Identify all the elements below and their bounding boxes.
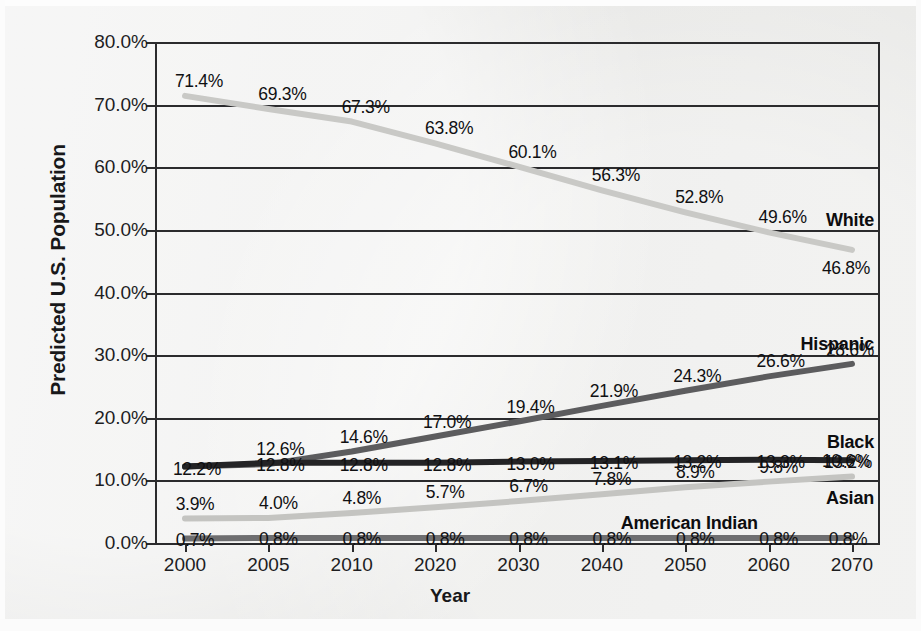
x-tick-label: 2040 [562,554,642,576]
data-label: 69.3% [258,84,306,105]
y-tick-label: 80.0% [38,31,148,53]
series-label-hispanic: Hispanic [801,333,874,354]
y-tick-label: 40.0% [38,282,148,304]
y-tick-label: 10.0% [38,469,148,491]
data-label: 0.7% [176,529,215,550]
data-label: 60.1% [508,141,556,162]
data-label: 9.8% [759,456,798,477]
data-label: 8.9% [676,462,715,483]
data-label: 13.0% [506,453,554,474]
scan-edge-left [0,0,5,631]
x-tick-label: 2020 [395,554,475,576]
plot-area: 0.0%10.0%20.0%30.0%40.0%50.0%60.0%70.0%8… [155,42,880,543]
y-tick-label: 60.0% [38,156,148,178]
series-label-white: White [826,209,874,230]
data-label: 12.8% [256,454,304,475]
x-tick-label: 2050 [645,554,725,576]
data-label: 52.8% [675,187,723,208]
scan-edge-right [916,0,921,631]
y-tick-label: 50.0% [38,219,148,241]
x-tick-label: 2000 [145,554,225,576]
data-label: 6.7% [509,476,548,497]
data-label: 63.8% [425,118,473,139]
x-tick-label: 2030 [479,554,559,576]
data-label: 10.6% [822,450,870,471]
data-label: 46.8% [822,257,870,278]
data-label: 12.8% [340,454,388,475]
data-label: 3.9% [176,493,215,514]
data-label: 56.3% [592,165,640,186]
data-label: 49.6% [759,207,807,228]
data-label: 26.6% [757,351,805,372]
x-tick-label: 2005 [228,554,308,576]
data-label: 4.8% [342,487,381,508]
data-label: 7.8% [593,469,632,490]
data-label: 21.9% [590,380,638,401]
data-label: 19.4% [506,396,554,417]
data-label: 71.4% [175,70,223,91]
series-label-asian: Asian [826,487,874,508]
x-tick-label: 2070 [812,554,892,576]
data-label: 17.0% [423,411,471,432]
y-tick-label: 70.0% [38,94,148,116]
series-label-black: Black [827,431,874,452]
x-axis-title: Year [430,585,470,607]
y-tick-label: 20.0% [38,407,148,429]
data-label: 0.8% [509,528,548,549]
data-label: 12.2% [173,458,221,479]
series-line-white [185,96,852,250]
data-label: 0.8% [342,528,381,549]
data-label: 0.8% [759,528,798,549]
data-label: 67.3% [342,96,390,117]
y-tick-label: 0.0% [38,532,148,554]
data-label: 5.7% [426,482,465,503]
chart-page: Predicted U.S. Population Year 0.0%10.0%… [0,0,921,631]
series-label-american-indian: American Indian [621,512,758,533]
x-tick-label: 2010 [312,554,392,576]
data-label: 24.3% [673,365,721,386]
data-label: 12.8% [423,454,471,475]
data-label: 0.8% [259,528,298,549]
y-tick-label: 30.0% [38,344,148,366]
data-label: 14.6% [340,426,388,447]
x-tick-label: 2060 [729,554,809,576]
data-label: 0.8% [829,528,868,549]
data-label: 4.0% [259,492,298,513]
data-label: 0.8% [426,528,465,549]
